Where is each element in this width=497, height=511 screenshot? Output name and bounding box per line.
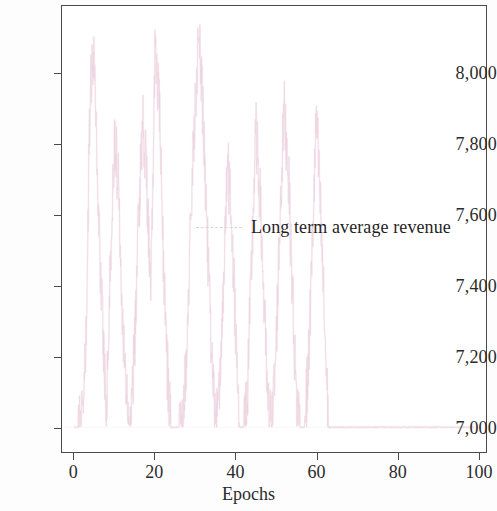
x-tick-label: 40 [226,462,244,483]
x-tick-label: 0 [69,462,78,483]
x-tick-mark [73,453,74,460]
y-tick-label: 7,200 [439,347,497,368]
legend-entry-label: Long term average revenue [251,217,451,238]
y-tick-label: 8,000 [439,62,497,83]
x-tick-label: 20 [145,462,163,483]
y-tick-mark [54,428,61,429]
chart-page: 7,0007,2007,4007,6007,8008,000 020406080… [0,0,497,511]
y-tick-mark [54,357,61,358]
x-tick-mark [317,453,318,460]
y-tick-mark [54,215,61,216]
x-tick-mark [235,453,236,460]
y-tick-mark [54,73,61,74]
y-tick-label: 7,400 [439,275,497,296]
y-tick-mark [54,286,61,287]
y-tick-label: 7,800 [439,133,497,154]
x-tick-mark [479,453,480,460]
x-axis-title: Epochs [0,484,497,505]
y-tick-mark [54,144,61,145]
chart-legend: Long term average revenue [196,217,451,238]
x-tick-mark [398,453,399,460]
x-tick-label: 60 [308,462,326,483]
x-tick-label: 100 [465,462,492,483]
y-tick-label: 7,000 [439,418,497,439]
x-tick-mark [154,453,155,460]
legend-line-swatch [196,227,242,228]
x-tick-label: 80 [389,462,407,483]
